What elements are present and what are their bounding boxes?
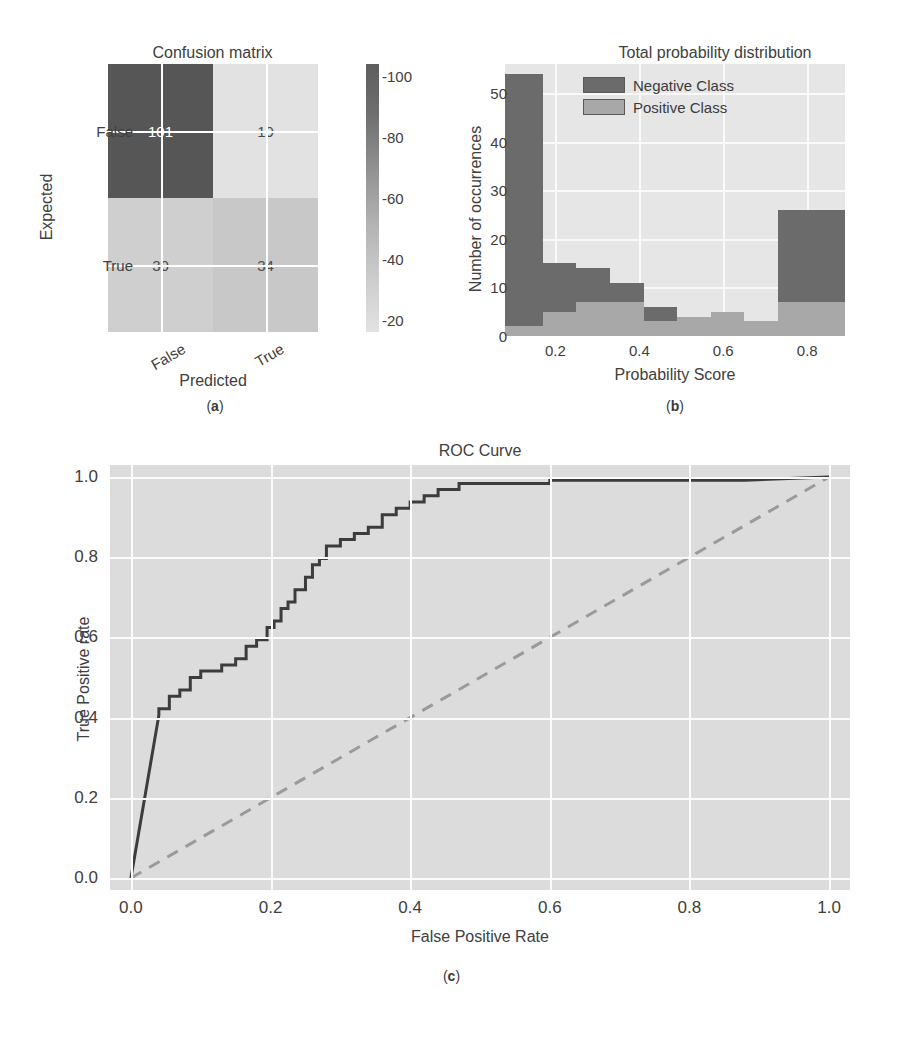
roc-ytick-0: 0.0: [74, 868, 98, 888]
colorbar-tick-20: ‑20: [382, 311, 404, 328]
panel-probability-histogram: Total probability distribution Negative …: [455, 0, 903, 420]
hist-bar-positive-8: [778, 302, 812, 336]
confusion-matrix-ylabel: Expected: [38, 174, 56, 241]
roc-gridline-x0_6: [550, 465, 552, 890]
roc-gridline-y0_2: [110, 798, 850, 800]
hist-bar-negative-0: [505, 74, 543, 336]
panel-label-b: (b): [560, 398, 790, 414]
confusion-matrix-title: Confusion matrix: [95, 44, 330, 62]
cm-xtick-false: False: [147, 340, 187, 373]
hist-ytick-50: 50: [490, 85, 507, 102]
confusion-matrix-plot-area: 101193034: [108, 64, 318, 332]
roc-gridline-y0_8: [110, 557, 850, 559]
roc-xtick-0: 0.0: [119, 898, 143, 918]
panel-label-c-letter: c: [448, 968, 456, 984]
hist-ytick-40: 40: [490, 133, 507, 150]
hist-ytick-30: 30: [490, 182, 507, 199]
roc-xtick-0_8: 0.8: [678, 898, 702, 918]
colorbar-tick-80: ‑80: [382, 129, 404, 146]
panel-label-a: (a): [100, 398, 330, 414]
roc-xtick-0_4: 0.4: [398, 898, 422, 918]
roc-ytick-0_6: 0.6: [74, 627, 98, 647]
hist-bar-positive-5: [677, 317, 711, 336]
colorbar-tick-100: ‑100: [382, 68, 412, 85]
roc-gridline-y0_4: [110, 718, 850, 720]
cm-gridline-v1: [266, 64, 268, 332]
roc-gridline-x0: [131, 465, 133, 890]
roc-ytick-0_2: 0.2: [74, 788, 98, 808]
roc-chance-line: [131, 477, 829, 878]
panel-confusion-matrix: Confusion matrix 101193034 Expected Pred…: [0, 0, 455, 420]
roc-ytick-1: 1.0: [74, 467, 98, 487]
hist-bar-positive-9: [811, 302, 845, 336]
roc-xlabel: False Positive Rate: [110, 928, 850, 946]
cm-gridline-h1: [108, 265, 318, 267]
legend-item-negative: Negative Class: [583, 74, 734, 96]
roc-ytick-0_8: 0.8: [74, 547, 98, 567]
hist-ytick-20: 20: [490, 230, 507, 247]
roc-gridline-x0_8: [689, 465, 691, 890]
roc-gridline-y1: [110, 477, 850, 479]
hist-bar-positive-4: [644, 321, 678, 336]
colorbar-gradient: [366, 64, 379, 332]
roc-xtick-0_6: 0.6: [538, 898, 562, 918]
hist-xtick-0_4: 0.4: [629, 342, 650, 359]
roc-gridline-x0_4: [410, 465, 412, 890]
hist-bar-positive-3: [610, 302, 644, 336]
roc-gridline-x0_2: [271, 465, 273, 890]
roc-ytick-0_4: 0.4: [74, 708, 98, 728]
panel-label-a-letter: a: [211, 398, 219, 414]
roc-curve-svg: [110, 465, 850, 890]
legend-label-positive: Positive Class: [633, 99, 727, 116]
hist-xtick-0_2: 0.2: [545, 342, 566, 359]
roc-gridline-x1: [829, 465, 831, 890]
histogram-legend: Negative Class Positive Class: [577, 72, 740, 120]
hist-ytick-0: 0: [499, 328, 507, 345]
cm-xtick-true: True: [252, 340, 287, 370]
roc-gridline-y0: [110, 878, 850, 880]
hist-bar-positive-6: [711, 312, 745, 336]
roc-xtick-1: 1.0: [817, 898, 841, 918]
roc-plot-area: [110, 465, 850, 890]
legend-item-positive: Positive Class: [583, 96, 734, 118]
hist-bar-positive-1: [543, 312, 577, 336]
legend-swatch-positive: [583, 99, 625, 115]
roc-title: ROC Curve: [110, 442, 850, 460]
cm-ytick-false: False: [96, 123, 133, 140]
panel-label-c: (c): [0, 968, 903, 984]
colorbar-tick-60: ‑60: [382, 190, 404, 207]
legend-swatch-negative: [583, 77, 625, 93]
confusion-matrix-xlabel: Predicted: [108, 372, 318, 390]
panel-label-b-letter: b: [671, 398, 680, 414]
hist-ytick-10: 10: [490, 279, 507, 296]
cm-gridline-h0: [108, 131, 318, 133]
legend-label-negative: Negative Class: [633, 77, 734, 94]
cm-ytick-true: True: [103, 257, 133, 274]
roc-xtick-0_2: 0.2: [259, 898, 283, 918]
hist-bar-positive-2: [576, 302, 610, 336]
roc-gridline-y0_6: [110, 637, 850, 639]
histogram-title: Total probability distribution: [550, 44, 880, 62]
colorbar-tick-40: ‑40: [382, 250, 404, 267]
hist-xtick-0_6: 0.6: [713, 342, 734, 359]
cm-gridline-v0: [161, 64, 163, 332]
hist-bar-positive-7: [744, 321, 778, 336]
histogram-xlabel: Probability Score: [505, 366, 845, 384]
hist-bar-positive-0: [505, 326, 543, 336]
hist-xtick-0_8: 0.8: [797, 342, 818, 359]
figure-root: Confusion matrix 101193034 Expected Pred…: [0, 0, 903, 1064]
panel-roc-curve: ROC Curve False Positive Rate True Posit…: [0, 420, 903, 1064]
histogram-ylabel: Number of occurrences: [467, 126, 485, 292]
